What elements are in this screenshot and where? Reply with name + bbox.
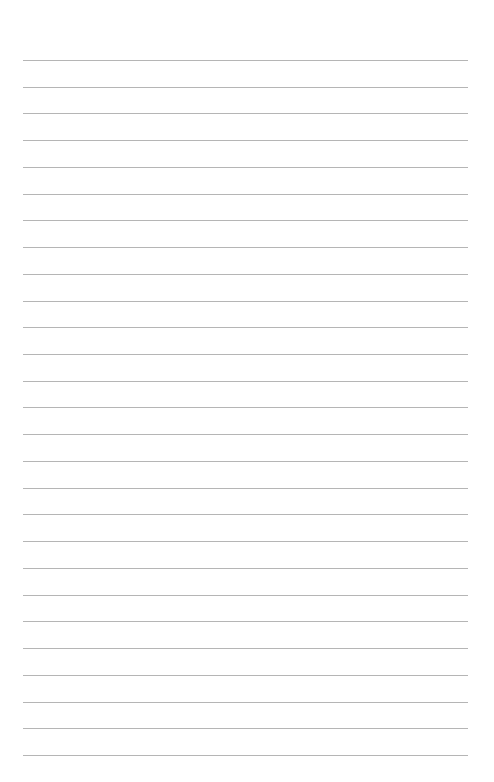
ruled-line [23, 621, 468, 622]
ruled-line [23, 434, 468, 435]
ruled-line [23, 87, 468, 88]
ruled-line [23, 140, 468, 141]
ruled-line [23, 194, 468, 195]
ruled-line [23, 354, 468, 355]
ruled-line [23, 327, 468, 328]
ruled-line [23, 648, 468, 649]
ruled-line [23, 60, 468, 61]
lined-paper-page [0, 0, 494, 782]
ruled-line [23, 541, 468, 542]
ruled-line [23, 301, 468, 302]
ruled-line [23, 113, 468, 114]
ruled-line [23, 702, 468, 703]
ruled-line [23, 728, 468, 729]
ruled-line [23, 514, 468, 515]
ruled-line [23, 675, 468, 676]
ruled-line [23, 247, 468, 248]
ruled-line [23, 755, 468, 756]
ruled-line [23, 568, 468, 569]
ruled-line [23, 381, 468, 382]
ruled-line [23, 220, 468, 221]
ruled-line [23, 595, 468, 596]
ruled-line [23, 274, 468, 275]
ruled-line [23, 407, 468, 408]
ruled-line [23, 461, 468, 462]
ruled-line [23, 167, 468, 168]
ruled-line [23, 488, 468, 489]
